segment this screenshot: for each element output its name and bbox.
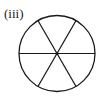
divided-circle-diagram [0, 0, 97, 99]
center-dot [55, 52, 58, 55]
